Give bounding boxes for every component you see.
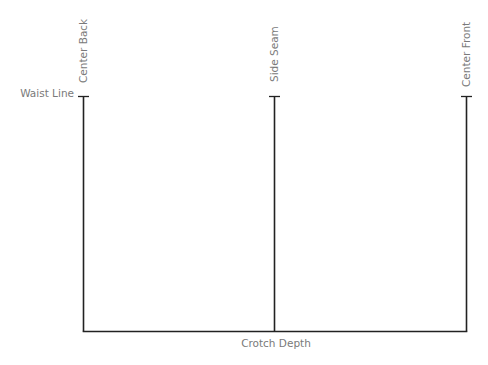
center-front-label: Center Front (460, 22, 472, 87)
crotch-depth-diagram: Waist Line Center Back Side Seam Center … (0, 0, 488, 365)
center-back-label: Center Back (77, 18, 89, 83)
crotch-depth-label: Crotch Depth (241, 337, 311, 349)
waist-line-label: Waist Line (20, 87, 74, 99)
side-seam-line (269, 96, 280, 332)
center-back-line (78, 96, 89, 332)
side-seam-label: Side Seam (268, 26, 280, 82)
center-front-line (461, 96, 472, 332)
